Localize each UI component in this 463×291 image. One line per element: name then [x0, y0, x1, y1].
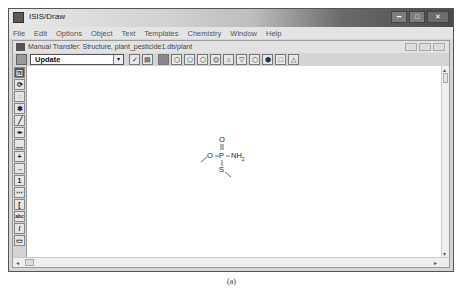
menu-chemistry[interactable]: Chemistry: [188, 29, 222, 38]
doc-restore-button[interactable]: [419, 43, 431, 51]
bracket-icon[interactable]: [: [14, 199, 25, 210]
bond-icon[interactable]: ╱: [14, 115, 25, 126]
maximize-button[interactable]: □: [409, 11, 425, 23]
doc-close-button[interactable]: [433, 43, 445, 51]
charge-plus-icon[interactable]: +: [14, 151, 25, 162]
document-icon: [16, 43, 25, 51]
figure-caption: (a): [0, 277, 463, 286]
menu-object[interactable]: Object: [91, 29, 113, 38]
atom-number-icon[interactable]: 1: [14, 175, 25, 186]
horizontal-scrollbar[interactable]: ◂ ▸: [13, 257, 449, 267]
app-icon: [13, 12, 24, 23]
rotate-icon[interactable]: ⟳: [14, 79, 25, 90]
chevron-down-icon[interactable]: ▾: [113, 55, 123, 64]
menu-text[interactable]: Text: [122, 29, 136, 38]
menu-window[interactable]: Window: [230, 29, 257, 38]
scroll-right-icon[interactable]: ▸: [434, 259, 437, 266]
drawing-canvas[interactable]: O P NH2 O S: [27, 66, 441, 257]
menu-file[interactable]: File: [13, 29, 25, 38]
square-icon[interactable]: □: [275, 54, 286, 65]
atom-amine: NH2: [231, 151, 245, 162]
horizontal-scroll-thumb[interactable]: [25, 259, 34, 266]
amine-subscript: 2: [242, 156, 245, 162]
lasso-select-icon[interactable]: ◱: [14, 67, 25, 78]
scroll-left-icon[interactable]: ◂: [16, 259, 19, 266]
eraser-icon[interactable]: ◌: [14, 91, 25, 102]
menu-options[interactable]: Options: [56, 29, 82, 38]
atom-icon[interactable]: ✱: [14, 103, 25, 114]
ring-icon[interactable]: ⬢: [262, 54, 273, 65]
mode-icon[interactable]: [16, 54, 27, 65]
window-controls: ━ □ ✕: [391, 11, 449, 23]
isisdraw-window: ISIS/Draw ━ □ ✕ File Edit Options Object…: [8, 8, 454, 272]
line-icon[interactable]: /: [14, 223, 25, 234]
menu-templates[interactable]: Templates: [144, 29, 178, 38]
cyclobutane-icon[interactable]: ⌂: [223, 54, 234, 65]
tool-palette: ◱ ⟳ ◌ ✱ ╱ ✒ ﹏ + → 1 ⋯ [ abc / ▭: [13, 66, 27, 257]
vertical-scrollbar[interactable]: ▴ ▾: [441, 66, 449, 257]
scroll-down-icon[interactable]: ▾: [443, 250, 446, 257]
check-icon[interactable]: ✓: [129, 54, 140, 65]
triangle-icon[interactable]: △: [288, 54, 299, 65]
menu-bar: File Edit Options Object Text Templates …: [9, 27, 453, 39]
template-icon[interactable]: ▤: [142, 54, 153, 65]
cyclopropane-icon[interactable]: ⬡: [171, 54, 182, 65]
amine-label: NH: [231, 151, 242, 160]
document-controls: [405, 43, 445, 51]
atom-oxygen-methoxy: O: [207, 151, 213, 160]
doc-minimize-button[interactable]: [405, 43, 417, 51]
cyclopentane-icon[interactable]: ⬠: [184, 54, 195, 65]
pentagon-down-icon[interactable]: ▽: [236, 54, 247, 65]
menu-help[interactable]: Help: [266, 29, 281, 38]
vertical-scroll-thumb[interactable]: [443, 73, 448, 83]
document-window: Manual Transfer: Structure, plant_pestic…: [12, 40, 450, 268]
document-title: Manual Transfer: Structure, plant_pestic…: [28, 43, 192, 50]
cyclohexane-icon[interactable]: ⬡: [197, 54, 208, 65]
scroll-up-icon[interactable]: ▴: [443, 66, 446, 73]
app-title: ISIS/Draw: [29, 12, 65, 21]
atom-oxygen-double: O: [219, 135, 225, 144]
atom-phosphorus: P: [219, 151, 224, 160]
arrow-icon[interactable]: →: [14, 163, 25, 174]
menu-edit[interactable]: Edit: [34, 29, 47, 38]
atom-sulfur: S: [219, 165, 224, 174]
dotted-bond-icon[interactable]: ⋯: [14, 187, 25, 198]
hexagon-chair-icon[interactable]: ⬡: [249, 54, 260, 65]
chain-icon[interactable]: ﹏: [14, 139, 25, 150]
mode-select-value: Update: [35, 55, 60, 64]
minimize-button[interactable]: ━: [391, 11, 407, 23]
main-toolbar: Update ▾ ✓ ▤ ⬡ ⬠ ⬡ ⏣ ⌂ ▽ ⬡ ⬢ □ △: [13, 53, 449, 66]
rectangle-icon[interactable]: ▭: [14, 235, 25, 246]
close-button[interactable]: ✕: [427, 11, 449, 23]
text-icon[interactable]: abc: [14, 211, 25, 222]
pen-icon[interactable]: ✒: [14, 127, 25, 138]
mode-select[interactable]: Update ▾: [30, 54, 124, 65]
document-title-bar[interactable]: Manual Transfer: Structure, plant_pestic…: [13, 41, 449, 53]
select-tool-icon[interactable]: [158, 54, 169, 65]
benzene-icon[interactable]: ⏣: [210, 54, 221, 65]
title-bar[interactable]: ISIS/Draw ━ □ ✕: [9, 9, 453, 27]
